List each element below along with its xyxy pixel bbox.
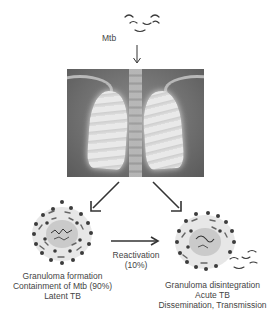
chest-xray-image [67, 69, 204, 177]
acute-tb-caption: Granuloma disintegration Acute TB Dissem… [150, 280, 275, 310]
reactivation-percent: (10%) [111, 260, 161, 270]
granuloma-disintegrating-icon [168, 209, 263, 277]
granuloma-formation-text: Granuloma formation [0, 271, 125, 281]
mtb-bacteria-icon [120, 12, 165, 36]
reactivation-label: Reactivation (10%) [111, 250, 161, 270]
arrow-reactivation-icon [111, 236, 161, 246]
granuloma-disintegration-text: Granuloma disintegration [150, 280, 275, 290]
arrow-down-icon [132, 45, 142, 65]
latent-tb-caption: Granuloma formation Containment of Mtb (… [0, 271, 125, 301]
latent-tb-text: Latent TB [0, 291, 125, 301]
reactivation-text: Reactivation [111, 250, 161, 260]
dissemination-text: Dissemination, Transmission [150, 300, 275, 310]
acute-tb-text: Acute TB [150, 290, 275, 300]
granuloma-intact-icon [25, 199, 100, 267]
containment-text: Containment of Mtb (90%) [0, 281, 125, 291]
mtb-label: Mtb [102, 33, 116, 43]
